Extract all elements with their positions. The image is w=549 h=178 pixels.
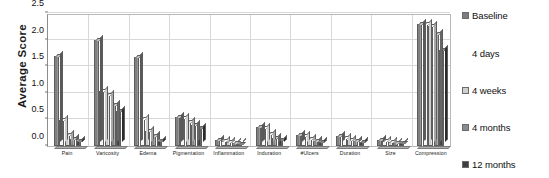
x-axis-labels: PainVaricosityEdemaPigmentationInflammat… [47,150,451,164]
bar [76,141,81,146]
x-tick-label: Edema [140,150,157,156]
bar-side-face [445,45,448,142]
y-tick-label: 0.5 [31,104,44,114]
y-tick-label: 1.5 [31,51,44,61]
x-tick-label: Varicosity [96,150,119,156]
bar [237,144,242,146]
bar-group [250,15,290,146]
legend-item[interactable]: 4 days [462,48,499,59]
x-tick-label: Inflammation [213,150,244,156]
bar-side-face [423,19,426,142]
legend-swatch-icon [462,12,469,19]
bar [94,40,99,146]
chart-legend: Baseline4 days4 weeks4 months12 months [462,6,548,172]
group-base [377,146,411,149]
bar-side-face [146,114,149,142]
x-tick-label: Pain [62,150,73,156]
bar-side-face [100,35,103,142]
group-base [215,146,249,149]
bar-side-face [434,21,437,142]
group-base [336,146,370,149]
legend-swatch-icon [462,50,469,57]
group-base [175,146,209,149]
bar-group [331,15,371,146]
y-tick-label: 0.0 [31,131,44,141]
bar-side-face [440,29,443,142]
bar [359,142,364,146]
bar-group [210,15,250,146]
y-axis-title: Average Score [16,6,28,126]
bar-side-face [163,136,166,142]
bar-side-face [60,51,63,142]
x-tick-label: #Ulcers [300,150,318,156]
y-tick-mark [45,12,48,13]
legend-item[interactable]: 4 months [462,122,510,133]
x-tick-label: Induration [257,150,281,156]
bar [336,136,341,146]
group-base [417,146,451,149]
bar-side-face [262,122,265,142]
bar [157,141,162,146]
bar-side-face [203,123,206,142]
legend-label: Baseline [472,10,508,21]
y-tick-label: 1.0 [31,78,44,88]
bar-group [169,15,209,146]
x-tick-label: Compression [415,150,447,156]
x-tick-label: Pigmentation [173,150,204,156]
bar-side-face [117,100,120,142]
bar-group [129,15,169,146]
bar-side-face [122,106,125,142]
bar-side-face [186,113,189,142]
bar [313,141,318,146]
bar-side-face [429,19,432,142]
bar [388,142,393,146]
bar [226,142,231,146]
bar [54,56,59,146]
group-base [54,146,88,149]
legend-swatch-icon [462,161,469,168]
bar-side-face [111,90,114,142]
bar [318,142,323,146]
x-tick-label: Size [385,150,396,156]
legend-swatch-icon [462,87,469,94]
bar-side-face [192,117,195,142]
bar [393,143,398,146]
legend-label: 4 weeks [472,85,506,96]
bar [399,143,404,146]
bar-chart-figure: Average Score 0.00.51.01.52.02.5 PainVar… [0,0,549,178]
bar-side-face [181,112,184,142]
bar [256,127,261,146]
bar-group [48,15,88,146]
legend-label: 12 months [472,159,515,170]
legend-label: 4 days [472,48,499,59]
bar-group [290,15,330,146]
plot-area: 0.00.51.01.52.02.5 [47,14,451,147]
group-base [134,146,168,149]
bar [417,24,422,146]
bar [175,117,180,146]
legend-item[interactable]: Baseline [462,10,508,21]
bar [296,135,301,146]
bar [377,140,382,146]
bar-side-face [284,135,287,142]
x-tick-label: Duration [340,150,360,156]
bar-group [412,15,452,146]
legend-label: 4 months [472,122,510,133]
y-tick-label: 2.0 [31,25,44,35]
legend-swatch-icon [462,124,469,131]
group-base [256,146,290,149]
bar [134,57,139,146]
legend-item[interactable]: 12 months [462,159,515,170]
bar-group [371,15,411,146]
bar [232,143,237,146]
bars-layer [48,15,450,146]
bar-side-face [65,115,68,142]
bar-group [88,15,128,146]
legend-item[interactable]: 4 weeks [462,85,506,96]
gridline [48,12,450,13]
y-tick-label: 2.5 [31,0,44,8]
bar [215,140,220,146]
bar-side-face [82,136,85,142]
group-base [296,146,330,149]
bar-side-face [140,52,143,142]
